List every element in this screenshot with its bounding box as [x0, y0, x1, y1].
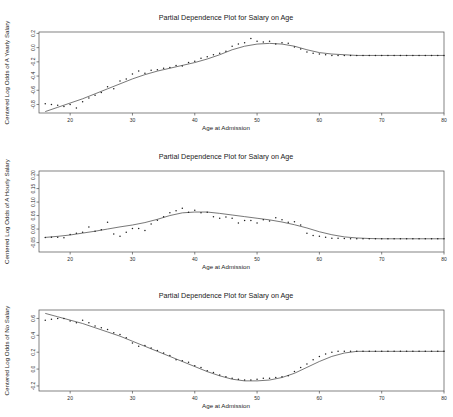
data-point: [231, 45, 233, 47]
data-point: [244, 42, 246, 44]
data-point: [294, 221, 296, 223]
data-point: [144, 345, 146, 347]
plot-frame: [39, 310, 444, 391]
data-point: [269, 40, 271, 42]
x-tick-label: 40: [192, 256, 198, 262]
chart-canvas-2: Partial Dependence Plot for Salary on Ag…: [3, 291, 447, 409]
data-point: [269, 220, 271, 222]
data-point: [157, 219, 159, 221]
plot-title: Partial Dependence Plot for Salary on Ag…: [159, 152, 294, 161]
data-point: [368, 238, 370, 240]
data-point: [175, 359, 177, 361]
data-point: [281, 42, 283, 44]
data-point: [312, 235, 314, 237]
data-point: [63, 318, 65, 320]
data-point: [393, 238, 395, 240]
data-point: [225, 216, 227, 218]
data-point: [431, 238, 433, 240]
data-point: [76, 107, 78, 109]
data-point: [263, 41, 265, 43]
data-point: [213, 372, 215, 374]
y-axis-label: Centered Log Odds of No Salary: [3, 305, 10, 396]
data-point: [157, 69, 159, 71]
panel-hourly-salary: Partial Dependence Plot for Salary on Ag…: [0, 139, 453, 278]
data-point: [132, 73, 134, 75]
data-point: [406, 351, 408, 353]
x-tick-label: 70: [379, 395, 385, 401]
x-tick-label: 50: [254, 117, 260, 123]
y-tick-label: -0.6: [30, 86, 36, 95]
data-point: [119, 80, 121, 82]
data-point: [437, 238, 439, 240]
plot-title: Partial Dependence Plot for Salary on Ag…: [159, 291, 294, 300]
data-point: [263, 219, 265, 221]
data-point: [325, 353, 327, 355]
data-point: [300, 224, 302, 226]
plot-frame: [39, 32, 444, 113]
data-point: [300, 48, 302, 50]
x-tick-label: 20: [67, 395, 73, 401]
data-point: [69, 320, 71, 322]
data-point: [406, 238, 408, 240]
data-point: [356, 238, 358, 240]
data-point: [76, 233, 78, 235]
data-point: [412, 55, 414, 57]
x-tick-label: 50: [254, 256, 260, 262]
data-point: [188, 362, 190, 364]
data-point: [325, 236, 327, 238]
data-point: [107, 222, 109, 224]
y-tick-label: -0.05: [30, 237, 36, 249]
data-point: [119, 334, 121, 336]
data-point: [431, 351, 433, 353]
x-tick-label: 20: [67, 256, 73, 262]
data-point: [132, 342, 134, 344]
data-point: [244, 220, 246, 222]
data-point: [57, 104, 59, 106]
data-point: [206, 370, 208, 372]
data-point: [393, 55, 395, 57]
data-point: [219, 218, 221, 220]
data-point: [443, 351, 445, 353]
x-tick-label: 20: [67, 117, 73, 123]
data-point: [362, 238, 364, 240]
y-tick-label: 0.05: [30, 210, 36, 220]
data-point: [188, 62, 190, 64]
data-point: [213, 54, 215, 56]
data-point: [375, 351, 377, 353]
data-point: [125, 232, 127, 234]
data-point: [269, 378, 271, 380]
y-tick-label: 0.4: [30, 332, 36, 339]
data-point: [138, 70, 140, 72]
data-point: [182, 65, 184, 67]
data-point: [88, 322, 90, 324]
y-tick-label: 0.10: [30, 197, 36, 207]
data-point: [344, 351, 346, 353]
data-point: [418, 238, 420, 240]
data-point: [387, 55, 389, 57]
data-point: [331, 351, 333, 353]
x-tick-label: 60: [317, 117, 323, 123]
data-point: [63, 106, 65, 108]
data-point: [150, 347, 152, 349]
data-point: [294, 46, 296, 48]
data-point: [44, 237, 46, 239]
y-tick-label: -0.8: [30, 100, 36, 109]
chart-canvas-0: Partial Dependence Plot for Salary on Ag…: [3, 13, 447, 131]
data-point: [431, 55, 433, 57]
data-point: [163, 67, 165, 69]
x-axis-label: Age at Admission: [202, 124, 250, 131]
data-point: [312, 359, 314, 361]
chart-canvas-1: Partial Dependence Plot for Salary on Ag…: [3, 152, 447, 270]
data-point: [150, 223, 152, 225]
data-point: [381, 351, 383, 353]
data-point: [63, 237, 65, 239]
data-point: [163, 216, 165, 218]
data-point: [250, 220, 252, 222]
data-point: [238, 43, 240, 45]
data-point: [57, 236, 59, 238]
data-point: [125, 78, 127, 80]
data-point: [238, 222, 240, 224]
data-point: [306, 233, 308, 235]
y-tick-label: 0.15: [30, 183, 36, 193]
data-point: [250, 38, 252, 40]
